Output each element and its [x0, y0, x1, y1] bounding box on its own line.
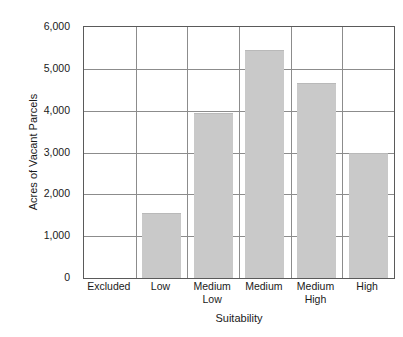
y-axis-tick-label: 3,000: [26, 147, 76, 157]
y-axis-tick-label: 0: [26, 272, 76, 282]
y-axis-tick-label: 4,000: [26, 105, 76, 115]
gridline-vertical: [187, 27, 188, 278]
x-axis-category-label: Excluded: [83, 280, 135, 293]
x-axis-category-label: Medium Low: [186, 280, 238, 306]
bar: [245, 50, 284, 278]
x-axis-category-label: Medium: [238, 280, 290, 293]
x-axis-category-label: Medium High: [290, 280, 342, 306]
y-axis-tick-label: 2,000: [26, 188, 76, 198]
bar: [194, 113, 233, 278]
x-axis-category-label: Low: [135, 280, 187, 293]
x-axis-category-label: High: [341, 280, 393, 293]
bar: [297, 83, 336, 278]
plot-area: [83, 26, 395, 279]
y-axis-tick-label: 5,000: [26, 63, 76, 73]
x-axis-category-labels: ExcludedLowMedium LowMediumMedium HighHi…: [83, 280, 395, 310]
y-axis-tick-labels: 01,0002,0003,0004,0005,0006,000: [26, 26, 76, 277]
plot-inner: [84, 27, 394, 278]
x-axis-title: Suitability: [83, 311, 395, 325]
gridline-vertical: [239, 27, 240, 278]
y-axis-tick-label: 6,000: [26, 21, 76, 31]
bar: [349, 153, 388, 279]
y-axis-tick-label: 1,000: [26, 230, 76, 240]
gridline-vertical: [291, 27, 292, 278]
gridline-vertical: [136, 27, 137, 278]
bar-chart-figure: Acres of Vacant Parcels 01,0002,0003,000…: [0, 0, 403, 337]
bar: [142, 213, 181, 278]
gridline-vertical: [342, 27, 343, 278]
